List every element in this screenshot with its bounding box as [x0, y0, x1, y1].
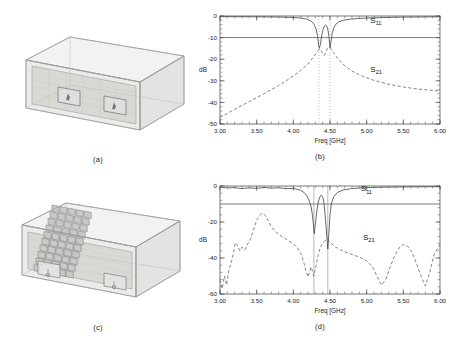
x-tick-label: 6.00 [434, 127, 446, 134]
y-tick-label: -20 [208, 55, 218, 62]
y-tick-label: 0 [214, 182, 218, 189]
x-tick-label: 3.00 [214, 127, 227, 134]
x-tick-label: 4.50 [324, 127, 337, 134]
figure-root: (a) [0, 0, 450, 345]
x-tick-label: 3.50 [251, 297, 264, 304]
y-tick-label: -10 [208, 34, 218, 41]
x-tick-label: 5.50 [397, 127, 410, 134]
x-axis-label: Freq [GHz] [314, 137, 345, 145]
y-tick-label: -40 [208, 99, 218, 106]
x-tick-label: 4.00 [287, 297, 300, 304]
caption-b: (b) [194, 152, 446, 161]
x-tick-label: 5.00 [361, 297, 374, 304]
y-tick-label: 0 [214, 12, 218, 19]
x-axis-label: Freq [GHz] [314, 307, 345, 315]
y-tick-label: -30 [208, 77, 218, 84]
x-tick-label: 5.50 [397, 297, 410, 304]
cad-c-svg [8, 185, 188, 325]
y-axis-label: dB [199, 236, 207, 243]
y-tick-label: -20 [208, 218, 218, 225]
chart-panel-b: 3.003.504.004.505.005.506.000-10-20-30-4… [194, 6, 446, 152]
chart-d-svg: 3.003.504.004.505.005.506.000-20-40-60S1… [194, 176, 446, 322]
cad-panel-c [8, 185, 188, 325]
y-axis-label: dB [199, 66, 207, 73]
chart-panel-d: 3.003.504.004.505.005.506.000-20-40-60S1… [194, 176, 446, 322]
x-tick-label: 6.00 [434, 297, 446, 304]
cad-a-svg [8, 12, 188, 152]
caption-a: (a) [8, 155, 188, 164]
x-tick-label: 3.00 [214, 297, 227, 304]
y-tick-label: -60 [208, 290, 218, 297]
caption-d: (d) [194, 322, 446, 331]
x-tick-label: 4.50 [324, 297, 337, 304]
x-tick-label: 4.00 [287, 127, 300, 134]
y-tick-label: -50 [208, 120, 218, 127]
x-tick-label: 5.00 [361, 127, 374, 134]
cad-panel-a [8, 12, 188, 152]
caption-c: (c) [8, 323, 188, 332]
plot-frame [220, 186, 440, 294]
x-tick-label: 3.50 [251, 127, 264, 134]
chart-b-svg: 3.003.504.004.505.005.506.000-10-20-30-4… [194, 6, 446, 152]
y-tick-label: -40 [208, 254, 218, 261]
